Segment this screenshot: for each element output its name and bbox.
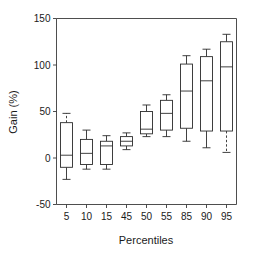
x-tick-label: 45 <box>121 211 133 222</box>
box-body <box>201 57 213 131</box>
y-axis-label: Gain (%) <box>7 90 19 133</box>
box-plot-item <box>121 133 133 150</box>
y-tick-label: 100 <box>34 60 51 71</box>
box-plot-item <box>61 113 73 179</box>
box-plot-item <box>101 136 113 169</box>
box-plot-item <box>201 49 213 148</box>
box-plot-item <box>181 56 193 142</box>
x-tick-label: 90 <box>201 211 213 222</box>
box-body <box>221 42 233 131</box>
x-tick-label: 5 <box>64 211 70 222</box>
y-tick-label: 0 <box>45 153 51 164</box>
x-tick-label: 15 <box>101 211 113 222</box>
y-tick-label: 50 <box>39 106 51 117</box>
box-plot-item <box>141 105 153 137</box>
x-tick-label: 85 <box>181 211 193 222</box>
box-body <box>181 64 193 128</box>
box-body <box>101 141 113 164</box>
box-plot-item <box>221 34 233 152</box>
box-plot-item <box>81 130 93 169</box>
x-axis-ticks: 51015455055859095 <box>64 205 233 222</box>
box-series <box>61 34 233 179</box>
box-plot-item <box>161 95 173 137</box>
box-body <box>141 112 153 134</box>
x-tick-label: 50 <box>141 211 153 222</box>
box-body <box>81 139 93 164</box>
x-tick-label: 95 <box>221 211 233 222</box>
y-axis-ticks: -50050100150 <box>34 13 57 210</box>
y-tick-label: 150 <box>34 13 51 24</box>
box-body <box>161 100 173 130</box>
x-tick-label: 55 <box>161 211 173 222</box>
x-axis-label: Percentiles <box>119 234 174 246</box>
box-body <box>61 123 73 168</box>
box-plot-figure: -50050100150 51015455055859095 Gain (%) … <box>0 0 254 257</box>
y-tick-label: -50 <box>36 199 51 210</box>
x-tick-label: 10 <box>81 211 93 222</box>
